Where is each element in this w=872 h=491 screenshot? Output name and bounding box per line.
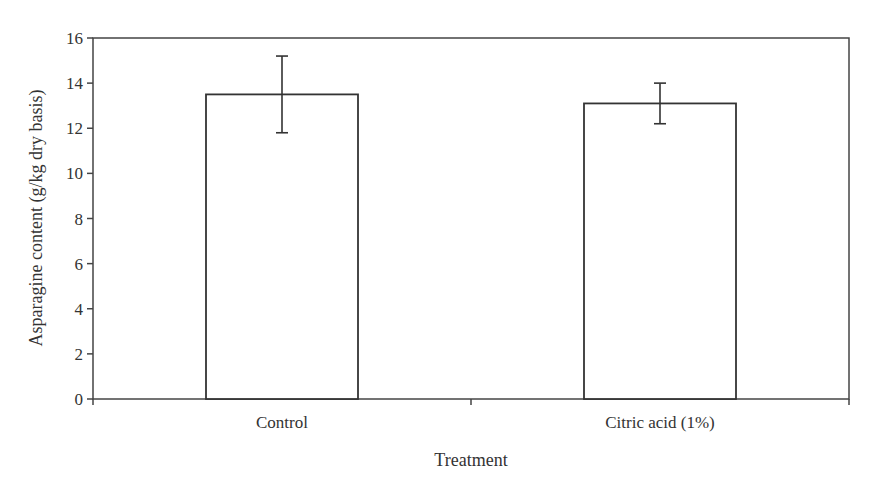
x-axis-title: Treatment xyxy=(434,450,507,470)
y-axis-title: Asparagine content (g/kg dry basis) xyxy=(26,90,47,347)
x-category-label: Control xyxy=(256,413,308,432)
bar-0 xyxy=(206,94,358,399)
bar-chart: 0246810121416ControlCitric acid (1%) Asp… xyxy=(0,0,872,491)
bar-1 xyxy=(584,103,736,399)
y-tick-label: 0 xyxy=(75,390,84,409)
x-category-label: Citric acid (1%) xyxy=(605,413,715,432)
y-tick-label: 6 xyxy=(75,255,84,274)
y-tick-label: 4 xyxy=(75,300,84,319)
y-tick-label: 12 xyxy=(66,119,83,138)
y-tick-label: 16 xyxy=(66,29,83,48)
y-tick-label: 8 xyxy=(75,210,84,229)
plot-area: 0246810121416ControlCitric acid (1%) xyxy=(66,29,849,432)
y-tick-label: 14 xyxy=(66,74,84,93)
y-tick-label: 10 xyxy=(66,164,83,183)
y-tick-label: 2 xyxy=(75,345,84,364)
